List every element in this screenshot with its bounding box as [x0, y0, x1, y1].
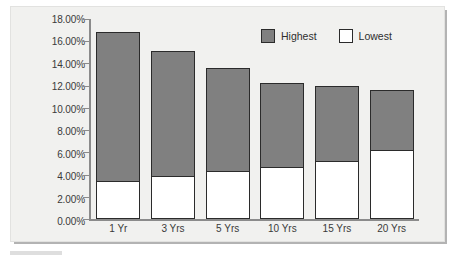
y-axis-tick	[83, 86, 89, 87]
y-tick-label: 6.00%	[57, 148, 85, 159]
bar-segment-lowest[interactable]	[260, 167, 304, 219]
bar-segment-lowest[interactable]	[206, 171, 250, 219]
y-axis-tick	[83, 175, 89, 176]
bar-column[interactable]	[260, 19, 304, 219]
legend-item-highest[interactable]: Highest	[261, 29, 317, 43]
y-axis-tick	[83, 19, 89, 20]
y-axis-labels: 18.00% 16.00% 14.00% 12.00% 10.00% 8.00%…	[29, 19, 85, 221]
bar-segment-highest[interactable]	[206, 68, 250, 171]
x-axis-line	[89, 219, 419, 221]
x-tick-label: 15 Yrs	[315, 223, 359, 234]
bar-segment-highest[interactable]	[151, 51, 195, 175]
bar-group	[91, 19, 419, 219]
bar-segment-lowest[interactable]	[315, 161, 359, 219]
y-axis-tick	[83, 63, 89, 64]
chart-legend: Highest Lowest	[261, 29, 392, 43]
y-tick-label: 10.00%	[52, 103, 85, 114]
legend-swatch-highest	[261, 29, 275, 43]
bar-segment-highest[interactable]	[260, 83, 304, 167]
chart-page: 18.00% 16.00% 14.00% 12.00% 10.00% 8.00%…	[0, 0, 454, 260]
y-tick-label: 14.00%	[52, 58, 85, 69]
x-tick-label: 1 Yr	[96, 223, 140, 234]
bar-segment-lowest[interactable]	[151, 176, 195, 219]
bar-segment-lowest[interactable]	[370, 150, 414, 219]
bar-column[interactable]	[370, 19, 414, 219]
x-tick-label: 5 Yrs	[206, 223, 250, 234]
bar-segment-lowest[interactable]	[96, 181, 140, 219]
y-tick-label: 12.00%	[52, 81, 85, 92]
y-tick-label: 8.00%	[57, 126, 85, 137]
legend-item-lowest[interactable]: Lowest	[339, 29, 392, 43]
plot-area: 18.00% 16.00% 14.00% 12.00% 10.00% 8.00%…	[11, 7, 444, 241]
y-tick-label: 4.00%	[57, 171, 85, 182]
y-axis-tick	[83, 197, 89, 198]
x-tick-label: 10 Yrs	[260, 223, 304, 234]
legend-swatch-lowest	[339, 29, 353, 43]
y-tick-label: 0.00%	[57, 216, 85, 227]
bar-column[interactable]	[151, 19, 195, 219]
chart-frame: 18.00% 16.00% 14.00% 12.00% 10.00% 8.00%…	[10, 6, 445, 242]
y-tick-label: 2.00%	[57, 193, 85, 204]
x-tick-label: 20 Yrs	[370, 223, 414, 234]
x-axis-labels: 1 Yr 3 Yrs 5 Yrs 10 Yrs 15 Yrs 20 Yrs	[91, 223, 419, 234]
x-tick-label: 3 Yrs	[151, 223, 195, 234]
bar-column[interactable]	[206, 19, 250, 219]
y-tick-label: 16.00%	[52, 36, 85, 47]
bar-column[interactable]	[315, 19, 359, 219]
bar-segment-highest[interactable]	[370, 90, 414, 151]
scan-artifact-mark	[10, 251, 62, 255]
y-axis-tick	[83, 130, 89, 131]
y-axis-tick	[83, 41, 89, 42]
y-axis-tick	[83, 219, 89, 220]
y-axis-tick	[83, 152, 89, 153]
bar-segment-highest[interactable]	[96, 32, 140, 181]
bar-column[interactable]	[96, 19, 140, 219]
legend-label-highest: Highest	[281, 30, 317, 42]
y-tick-label: 18.00%	[52, 14, 85, 25]
legend-label-lowest: Lowest	[359, 30, 392, 42]
bar-segment-highest[interactable]	[315, 86, 359, 161]
y-axis-tick	[83, 108, 89, 109]
